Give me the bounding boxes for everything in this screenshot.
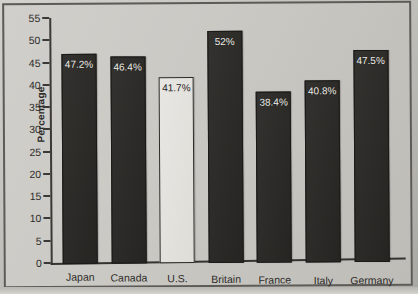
bar-britain[interactable]: 52% [207, 31, 243, 263]
bar-value-label: 52% [208, 36, 241, 47]
y-axis-tick-label: 55 [29, 12, 41, 24]
y-axis-tick: 35 [5, 101, 50, 113]
y-axis-ticks: 5550454035302520151050 [4, 3, 409, 5]
y-axis-tick-label: 40 [29, 79, 41, 91]
bar-japan[interactable]: 47.2% [61, 53, 97, 263]
y-axis-tick-label: 10 [30, 212, 42, 224]
y-axis-tick-mark [43, 128, 50, 130]
bar-slot: 47.5% [353, 17, 389, 262]
bar-france[interactable]: 38.4% [256, 91, 292, 262]
y-axis-tick-label: 45 [29, 57, 41, 69]
y-axis-tick-mark [43, 217, 50, 219]
y-axis-tick: 40 [5, 79, 50, 91]
y-axis-tick-mark [43, 84, 50, 86]
y-axis-tick-mark [43, 195, 50, 197]
y-axis-tick-label: 35 [29, 101, 41, 113]
bar-value-label: 41.7% [160, 82, 193, 93]
y-axis-tick-mark [43, 151, 50, 153]
bar-canada[interactable]: 46.4% [110, 57, 146, 264]
y-axis-tick-label: 30 [29, 123, 41, 135]
bar-value-label: 47.2% [62, 58, 95, 69]
y-axis-tick: 30 [5, 123, 50, 135]
bar-us[interactable]: 41.7% [159, 77, 195, 263]
x-axis-category-labels: JapanCanadaU.S.BritainFranceItalyGermany [4, 3, 409, 5]
y-axis-tick-mark [44, 262, 51, 264]
bar-value-label: 46.4% [111, 62, 144, 73]
y-axis-tick-label: 25 [29, 146, 41, 158]
bar-value-label: 47.5% [354, 55, 387, 66]
y-axis-tick-label: 20 [29, 168, 41, 180]
bar-slot: 46.4% [110, 18, 146, 263]
chart-page: Percentage 5550454035302520151050 47.2%4… [0, 0, 418, 294]
category-label-germany: Germany [339, 274, 405, 286]
y-axis-tick: 15 [5, 190, 50, 202]
figure-frame: Percentage 5550454035302520151050 47.2%4… [2, 1, 413, 288]
y-axis-tick-label: 15 [30, 190, 42, 202]
y-axis-tick: 25 [5, 146, 50, 158]
y-axis-tick: 5 [6, 235, 51, 247]
bar-slot: 52% [207, 18, 243, 263]
y-axis-tick-label: 5 [36, 235, 42, 247]
bar-slot: 47.2% [61, 19, 97, 264]
page-bottom-edge [0, 287, 418, 294]
bar-slot: 41.7% [158, 18, 194, 263]
bar-value-label: 40.8% [306, 85, 339, 96]
y-axis-tick-label: 50 [29, 34, 41, 46]
y-axis-tick: 50 [4, 34, 49, 46]
y-axis-tick: 20 [5, 168, 50, 180]
bar-slot: 38.4% [256, 17, 292, 262]
plot-area: 47.2%46.4%41.7%52%38.4%40.8%47.5% [51, 17, 404, 264]
y-axis-tick-mark [43, 173, 50, 175]
bar-italy[interactable]: 40.8% [305, 80, 341, 262]
y-axis-tick-mark [42, 39, 49, 41]
y-axis-tick-label: 0 [36, 257, 42, 269]
y-axis-tick-mark [42, 17, 49, 19]
y-axis-tick: 0 [6, 257, 51, 269]
y-axis-tick: 10 [5, 212, 50, 224]
bar-germany[interactable]: 47.5% [353, 50, 389, 262]
y-axis-tick: 55 [4, 12, 49, 24]
y-axis-tick-mark [42, 61, 49, 63]
y-axis-tick: 45 [4, 56, 49, 68]
y-axis-tick-mark [43, 106, 50, 108]
bar-value-label: 38.4% [257, 96, 290, 107]
y-axis-tick-mark [44, 240, 51, 242]
bar-slot: 40.8% [304, 17, 340, 262]
